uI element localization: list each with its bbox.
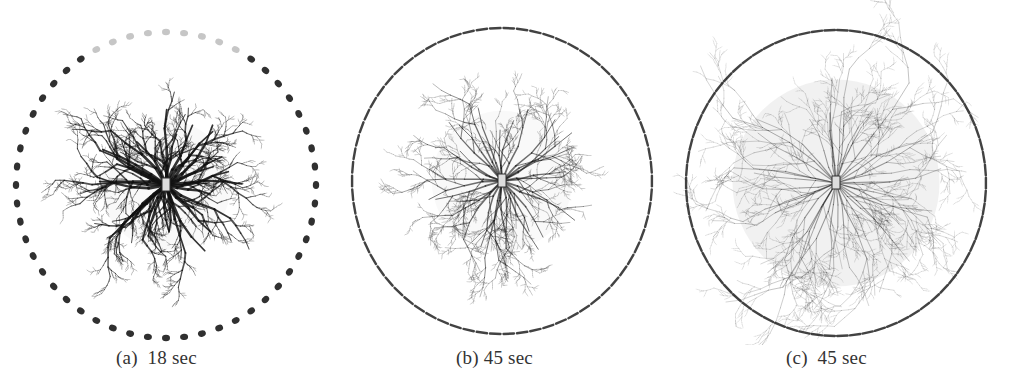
panel-a — [0, 0, 340, 345]
branching-pattern-a — [0, 0, 340, 345]
branching-pattern-c — [670, 0, 1010, 345]
panel-c — [670, 0, 1010, 345]
caption-b: (b) 45 sec — [456, 347, 533, 369]
caption-c: (c) 45 sec — [786, 347, 867, 369]
caption-a: (a) 18 sec — [116, 347, 197, 369]
panel-b — [336, 0, 676, 345]
branching-pattern-b — [336, 0, 676, 345]
